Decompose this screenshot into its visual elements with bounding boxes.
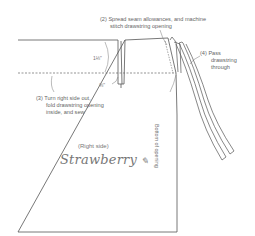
brand-signature: Strawberry ✎ <box>60 152 150 167</box>
leader-bottom-opening <box>170 75 176 92</box>
step-4-line-1: (4) Pass <box>200 50 237 57</box>
bag-diagram <box>0 0 255 236</box>
step-3-line-1: (3) Turn right side out, <box>36 95 104 102</box>
right-side-label: (Right side) <box>78 143 109 149</box>
dimension-top-height: 1⅛" <box>93 55 102 61</box>
step-3-label: (3) Turn right side out, fold drawstring… <box>36 95 104 116</box>
dimension-opening-width: ⅜" <box>99 82 105 88</box>
bottom-of-opening-label: Bottom of opening <box>154 124 160 168</box>
step-3-line-2: fold drawstring opening <box>36 102 104 109</box>
step-4-line-2: drawstring <box>200 57 237 64</box>
strawberry-charm-icon: ✎ <box>141 156 149 166</box>
leader-step3 <box>51 76 54 92</box>
step-2-label: (2) Spread seam allowances, and machine … <box>100 16 206 30</box>
step-2-line-1: (2) Spread seam allowances, and machine <box>100 16 206 23</box>
step-4-label: (4) Pass drawstring through <box>200 50 237 71</box>
casing-fold <box>118 40 125 88</box>
dimension-leader-small <box>112 77 118 84</box>
step-2-line-2: stitch drawstring opening <box>100 23 206 30</box>
step-3-line-3: inside, and sew <box>36 109 104 116</box>
brand-signature-text: Strawberry <box>60 152 137 167</box>
step-4-line-3: through <box>200 64 237 71</box>
leader-step2 <box>160 30 167 45</box>
opening-stitch <box>165 41 173 73</box>
dimension-arc-top <box>105 42 109 72</box>
